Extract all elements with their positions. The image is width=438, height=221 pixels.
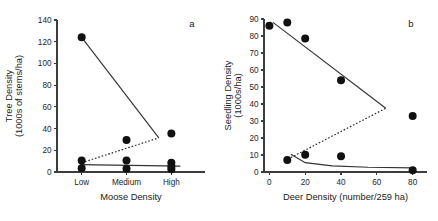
y-axis-title-line2: (1000s/ha) [233, 73, 243, 117]
x-tick-label: 80 [408, 178, 418, 187]
trend-line-lower-solid-curve [291, 154, 413, 168]
x-axis-title: Deer Density (number/259 ha) [283, 192, 408, 202]
data-point [409, 112, 417, 120]
y-tick-label: 140 [38, 16, 52, 25]
y-tick-label: 90 [249, 15, 259, 24]
y-axis-title-line2: (1000s of stems/ha) [14, 55, 24, 137]
y-tick-label: 10 [249, 151, 259, 160]
y-tick-label: 20 [249, 134, 259, 143]
x-tick-label: 0 [267, 178, 272, 187]
y-tick-label: 0 [254, 168, 259, 177]
panel-b-canvas: 0102030405060708090020406080Deer Density… [219, 0, 438, 221]
x-tick-label: 60 [372, 178, 382, 187]
data-point [301, 35, 309, 43]
y-tick-label: 50 [249, 83, 259, 92]
data-point [409, 166, 417, 174]
y-axis-title-line1: Seedling Density [223, 60, 233, 130]
y-tick-label: 40 [42, 125, 52, 134]
y-tick-label: 20 [42, 146, 52, 155]
data-point [301, 151, 309, 159]
y-tick-label: 100 [38, 59, 52, 68]
y-tick-label: 80 [42, 81, 52, 90]
data-point [265, 22, 273, 30]
y-tick-label: 120 [38, 38, 52, 47]
x-tick-label: 20 [301, 178, 311, 187]
data-point [337, 152, 345, 160]
y-tick-label: 40 [249, 100, 259, 109]
data-point [78, 157, 86, 165]
data-point [78, 164, 86, 172]
y-axis-title-line1: Tree Density [4, 69, 14, 122]
data-point [337, 76, 345, 84]
y-tick-label: 0 [47, 168, 52, 177]
data-point [78, 33, 86, 41]
data-point [283, 18, 291, 26]
y-tick-label: 70 [249, 49, 259, 58]
x-axis-title: Moose Density [100, 192, 162, 202]
trend-line-dotted-trend [291, 108, 386, 157]
y-tick-label: 60 [42, 103, 52, 112]
data-point [123, 136, 131, 144]
data-point [167, 129, 175, 137]
trend-line-upper-solid-trend [273, 22, 386, 108]
x-tick-label: 40 [336, 178, 346, 187]
x-category-label: High [163, 178, 180, 187]
y-tick-label: 60 [249, 66, 259, 75]
trend-line-lower-solid-trend [80, 165, 180, 167]
panel-a-canvas: 020406080100120140LowMediumHighMoose Den… [0, 0, 219, 221]
trend-line-upper-solid-trend [82, 37, 159, 137]
figure-container: 020406080100120140LowMediumHighMoose Den… [0, 0, 438, 221]
trend-line-dotted-trend [82, 138, 159, 163]
panel-letter-label: a [189, 18, 195, 29]
x-category-label: Low [74, 178, 89, 187]
chart-panel-b: 0102030405060708090020406080Deer Density… [219, 0, 438, 221]
data-point [167, 165, 175, 173]
y-tick-label: 30 [249, 117, 259, 126]
data-point [123, 157, 131, 165]
x-category-label: Medium [112, 178, 141, 187]
y-tick-label: 80 [249, 32, 259, 41]
data-point [283, 156, 291, 164]
chart-panel-a: 020406080100120140LowMediumHighMoose Den… [0, 0, 219, 221]
panel-letter-label: b [408, 18, 413, 29]
data-point [123, 165, 131, 173]
